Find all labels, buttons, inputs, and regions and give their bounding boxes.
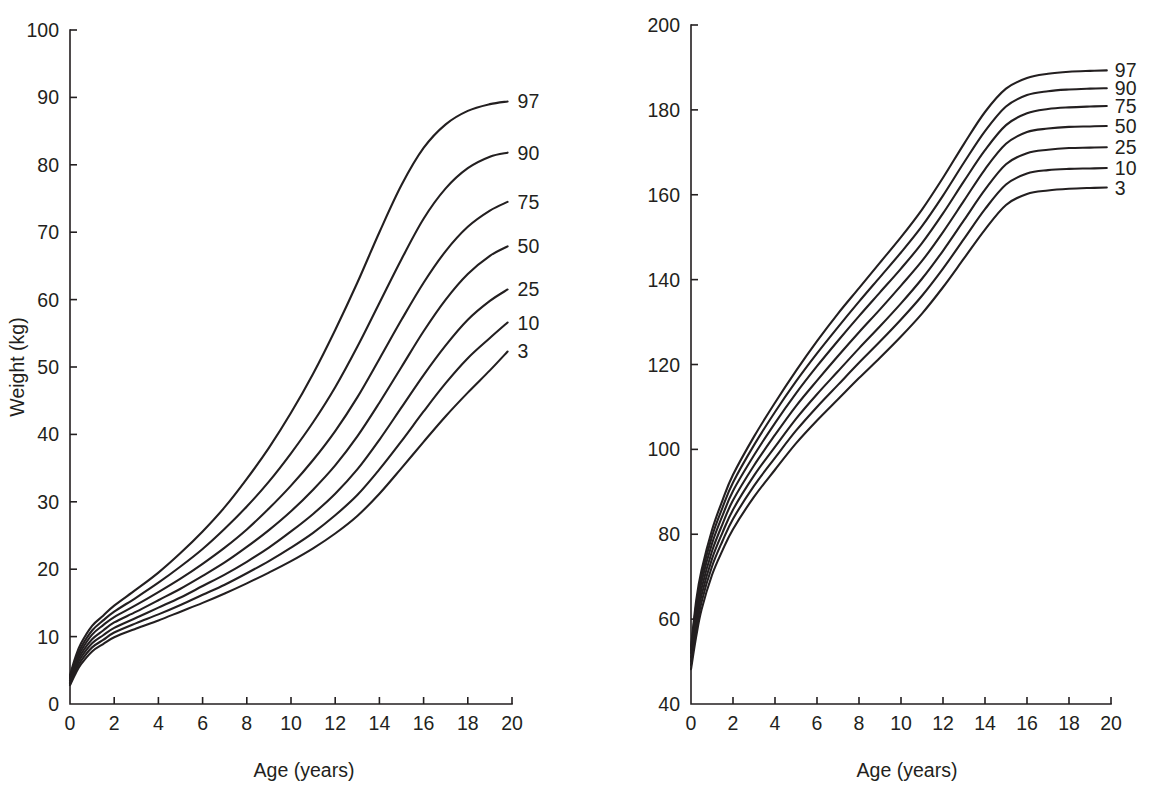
stature-axes — [691, 25, 1111, 704]
percentile-label-50: 50 — [518, 235, 540, 257]
x-tick-label: 10 — [280, 712, 302, 734]
y-tick-label: 70 — [37, 221, 59, 243]
y-tick-label: 80 — [658, 523, 680, 545]
percentile-label-10: 10 — [518, 312, 540, 334]
y-tick-label: 80 — [37, 154, 59, 176]
x-tick-label: 10 — [890, 712, 912, 734]
x-tick-label: 4 — [770, 712, 781, 734]
stature-percentile-curves — [691, 70, 1107, 669]
y-tick-label: 100 — [647, 438, 680, 460]
x-tick-label: 12 — [324, 712, 346, 734]
y-tick-label: 0 — [48, 693, 59, 715]
percentile-label-75: 75 — [518, 191, 540, 213]
stature-axis-lines — [691, 25, 1111, 704]
y-tick-label: 30 — [37, 491, 59, 513]
x-tick-label: 6 — [812, 712, 823, 734]
y-tick-label: 40 — [658, 693, 680, 715]
x-tick-label: 8 — [854, 712, 865, 734]
x-tick-label: 2 — [109, 712, 120, 734]
weight-for-age-chart: 0102030405060708090100 02468101214161820… — [0, 0, 588, 810]
stature-percentile-labels: 9790755025103 — [1115, 59, 1137, 198]
x-tick-label: 20 — [501, 712, 523, 734]
percentile-curve-50 — [70, 246, 508, 680]
x-tick-label: 20 — [1100, 712, 1122, 734]
figure-growth-charts: 0102030405060708090100 02468101214161820… — [0, 0, 1175, 810]
weight-axes — [70, 30, 512, 704]
x-tick-label: 14 — [974, 712, 996, 734]
y-tick-label: 200 — [647, 14, 680, 36]
percentile-label-97: 97 — [518, 90, 540, 112]
percentile-label-3: 3 — [518, 340, 529, 362]
x-tick-label: 18 — [457, 712, 479, 734]
weight-percentile-curves — [70, 101, 508, 685]
weight-x-ticks: 02468101214161820 — [65, 697, 523, 734]
y-tick-label: 60 — [658, 608, 680, 630]
stature-for-age-chart: 406080100120140160180200 024681012141618… — [587, 0, 1175, 810]
y-tick-label: 60 — [37, 289, 59, 311]
y-tick-label: 100 — [26, 19, 59, 41]
percentile-curve-10 — [691, 168, 1107, 665]
stature-x-axis-title: Age (years) — [857, 759, 958, 781]
percentile-curve-75 — [691, 106, 1107, 653]
y-tick-label: 140 — [647, 269, 680, 291]
x-tick-label: 0 — [65, 712, 76, 734]
x-tick-label: 16 — [413, 712, 435, 734]
y-tick-label: 50 — [37, 356, 59, 378]
x-tick-label: 4 — [153, 712, 164, 734]
y-tick-label: 120 — [647, 354, 680, 376]
percentile-curve-75 — [70, 202, 508, 679]
percentile-curve-3 — [70, 352, 508, 686]
y-tick-label: 40 — [37, 423, 59, 445]
stature-chart-svg: 406080100120140160180200 024681012141618… — [587, 0, 1175, 810]
percentile-curve-90 — [691, 88, 1107, 649]
stature-x-ticks: 02468101214161820 — [686, 697, 1122, 734]
percentile-label-75: 75 — [1115, 95, 1137, 117]
weight-percentile-labels: 9790755025103 — [518, 90, 540, 362]
x-tick-label: 2 — [728, 712, 739, 734]
percentile-label-25: 25 — [518, 278, 540, 300]
x-tick-label: 18 — [1058, 712, 1080, 734]
y-tick-label: 90 — [37, 86, 59, 108]
x-tick-label: 16 — [1016, 712, 1038, 734]
percentile-label-25: 25 — [1115, 136, 1137, 158]
percentile-label-90: 90 — [518, 142, 540, 164]
percentile-curve-3 — [691, 188, 1107, 670]
y-tick-label: 160 — [647, 184, 680, 206]
y-tick-label: 20 — [37, 558, 59, 580]
percentile-label-3: 3 — [1115, 177, 1126, 199]
weight-chart-svg: 0102030405060708090100 02468101214161820… — [0, 0, 588, 810]
percentile-label-50: 50 — [1115, 115, 1137, 137]
y-tick-label: 10 — [37, 626, 59, 648]
x-tick-label: 0 — [686, 712, 697, 734]
weight-y-axis-title: Weight (kg) — [6, 317, 28, 416]
weight-axis-lines — [70, 30, 512, 704]
y-tick-label: 180 — [647, 99, 680, 121]
x-tick-label: 8 — [241, 712, 252, 734]
percentile-curve-97 — [691, 70, 1107, 646]
weight-x-axis-title: Age (years) — [254, 759, 355, 781]
percentile-curve-25 — [691, 147, 1107, 661]
percentile-curve-50 — [691, 126, 1107, 657]
x-tick-label: 12 — [932, 712, 954, 734]
x-tick-label: 14 — [369, 712, 391, 734]
x-tick-label: 6 — [197, 712, 208, 734]
